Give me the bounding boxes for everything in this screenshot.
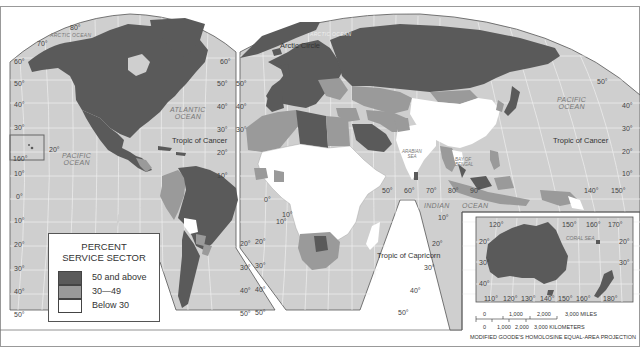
swatch-dark	[58, 271, 82, 285]
lat-label: 50°	[398, 309, 409, 316]
pacific-ocean-left-label: PACIFIC OCEAN	[62, 152, 91, 166]
lat-label: 30°	[424, 264, 435, 271]
lon-label: 80°	[448, 187, 459, 194]
lon-label: 50°	[382, 187, 393, 194]
lon-label: 90°	[470, 187, 481, 194]
inset-lon-label: 120°	[503, 295, 517, 302]
lat-label: 20°	[432, 240, 443, 247]
pacific-right-line2: OCEAN	[557, 103, 586, 110]
lat-label: 10°	[14, 217, 25, 224]
arctic-ocean-right-label: ARCTIC OCEAN	[310, 32, 351, 37]
inset-lon-label: 140°	[540, 295, 554, 302]
lat-label: 50°	[14, 80, 25, 87]
inset-lon-label: 150°	[562, 221, 576, 228]
pacific-right-line1: PACIFIC	[557, 96, 586, 103]
inset-lat-label: 30°	[479, 259, 490, 266]
bay-of-bengal-label: BAY OF BENGAL	[455, 158, 473, 167]
tropic-of-cancer-right-label: Tropic of Cancer	[553, 137, 608, 145]
tropic-of-cancer-left-label: Tropic of Cancer	[172, 137, 227, 145]
botswana	[314, 236, 328, 252]
legend-item-low: Below 30	[58, 299, 158, 313]
inset-lat-label: 40°	[479, 280, 490, 287]
projection-label: MODIFIED GOODE'S HOMOLOSINE EQUAL-AREA P…	[470, 334, 636, 340]
lat-label: 50°	[236, 80, 247, 87]
lon-label: 60°	[404, 187, 415, 194]
scale-miles-0: 0	[483, 311, 486, 317]
lat-label: 20°	[217, 149, 228, 156]
lat-label: 40°	[240, 287, 251, 294]
world-map: ARCTIC OCEAN ARCTIC OCEAN ATLANTIC OCEAN…	[0, 0, 640, 348]
lat-label: 10°	[282, 211, 293, 218]
lat-label: 0°	[16, 193, 23, 200]
scale-km-2000: 2,000	[515, 324, 529, 330]
scale-miles-2000: 2,000	[537, 311, 551, 317]
lat-label: 10°	[622, 170, 633, 177]
legend-title-line1: PERCENT	[49, 241, 159, 252]
scale-km-1000: 1,000	[497, 324, 511, 330]
inset-lon-label: 130°	[521, 295, 535, 302]
lat-label: 50°	[240, 310, 251, 317]
tropic-of-capricorn-label: Tropic of Capricorn	[377, 252, 441, 260]
legend-item-high: 50 and above	[58, 271, 158, 285]
lat-label: 40°	[14, 288, 25, 295]
atlantic-line1: ATLANTIC	[170, 106, 206, 113]
legend-label-mid: 30—49	[92, 286, 121, 296]
lat-label: 40°	[410, 287, 421, 294]
lat-label: 30°	[14, 265, 25, 272]
pacific-left-line2: OCEAN	[62, 159, 91, 166]
atlantic-line2: OCEAN	[170, 113, 206, 120]
arctic-ocean-left-label: ARCTIC OCEAN	[50, 33, 91, 38]
indian-ocean-label-1: INDIAN	[424, 202, 450, 209]
scale-miles-3000: 3,000 MILES	[565, 311, 597, 317]
lat-label: 40°	[14, 101, 25, 108]
libya	[296, 110, 328, 148]
inset-lon-label: 160°	[576, 295, 590, 302]
lat-label: 30°	[217, 126, 228, 133]
lat-label: 20°	[49, 146, 60, 153]
inset-lat-label: 20°	[619, 238, 630, 245]
egypt	[326, 116, 350, 146]
lat-label: 10°	[14, 170, 25, 177]
arabian-sea-label: ARABIAN SEA	[402, 150, 422, 159]
swatch-mid	[58, 285, 82, 299]
lat-label: 30°	[236, 126, 247, 133]
legend-label-low: Below 30	[92, 300, 129, 310]
pacific-left-line1: PACIFIC	[62, 152, 91, 159]
coral-sea-label: CORAL SEA	[566, 236, 595, 241]
inset-lon-label: 110°	[484, 295, 498, 302]
lat-label: 20°	[255, 238, 266, 245]
legend-title: PERCENT SERVICE SECTOR	[49, 241, 159, 263]
inset-lon-label: 160°	[586, 221, 600, 228]
lat-label: 40°	[622, 102, 633, 109]
inset-lon-label: 180°	[603, 295, 617, 302]
pacific-ocean-right-label: PACIFIC OCEAN	[557, 96, 586, 110]
lat-label: 50°	[217, 80, 228, 87]
lat-label: 30°	[240, 264, 251, 271]
arctic-circle-label: Arctic Circle	[280, 42, 320, 50]
scale-miles-1000: 1,000	[509, 311, 523, 317]
lat-label: 60°	[220, 58, 231, 65]
lat-label: 50°	[597, 78, 608, 85]
legend-label-high: 50 and above	[92, 272, 147, 282]
inset-lat-label: 30°	[619, 259, 630, 266]
lat-label: 70°	[37, 40, 48, 47]
lat-label: 40°	[255, 286, 266, 293]
lat-label: 10°	[438, 214, 449, 221]
lat-label: 20°	[240, 240, 251, 247]
lat-label: 20°	[622, 148, 633, 155]
lon-label: 140°	[584, 187, 598, 194]
lon-label: 160°	[13, 155, 27, 162]
inset-lon-label: 120°	[489, 221, 503, 228]
lon-label: 150°	[611, 187, 625, 194]
lon-label: 70°	[426, 187, 437, 194]
lat-label: 50°	[255, 309, 266, 316]
lat-label: 50°	[14, 311, 25, 318]
lat-label: 20°	[14, 241, 25, 248]
legend: PERCENT SERVICE SECTOR 50 and above 30—4…	[48, 233, 160, 322]
arabian-line2: SEA	[402, 155, 422, 160]
lat-label: 60°	[14, 58, 25, 65]
indian-ocean-label-2: OCEAN	[462, 202, 488, 209]
scale-km-0: 0	[483, 324, 486, 330]
lat-label: 10°	[217, 172, 228, 179]
inset-lon-label: 150°	[558, 295, 572, 302]
